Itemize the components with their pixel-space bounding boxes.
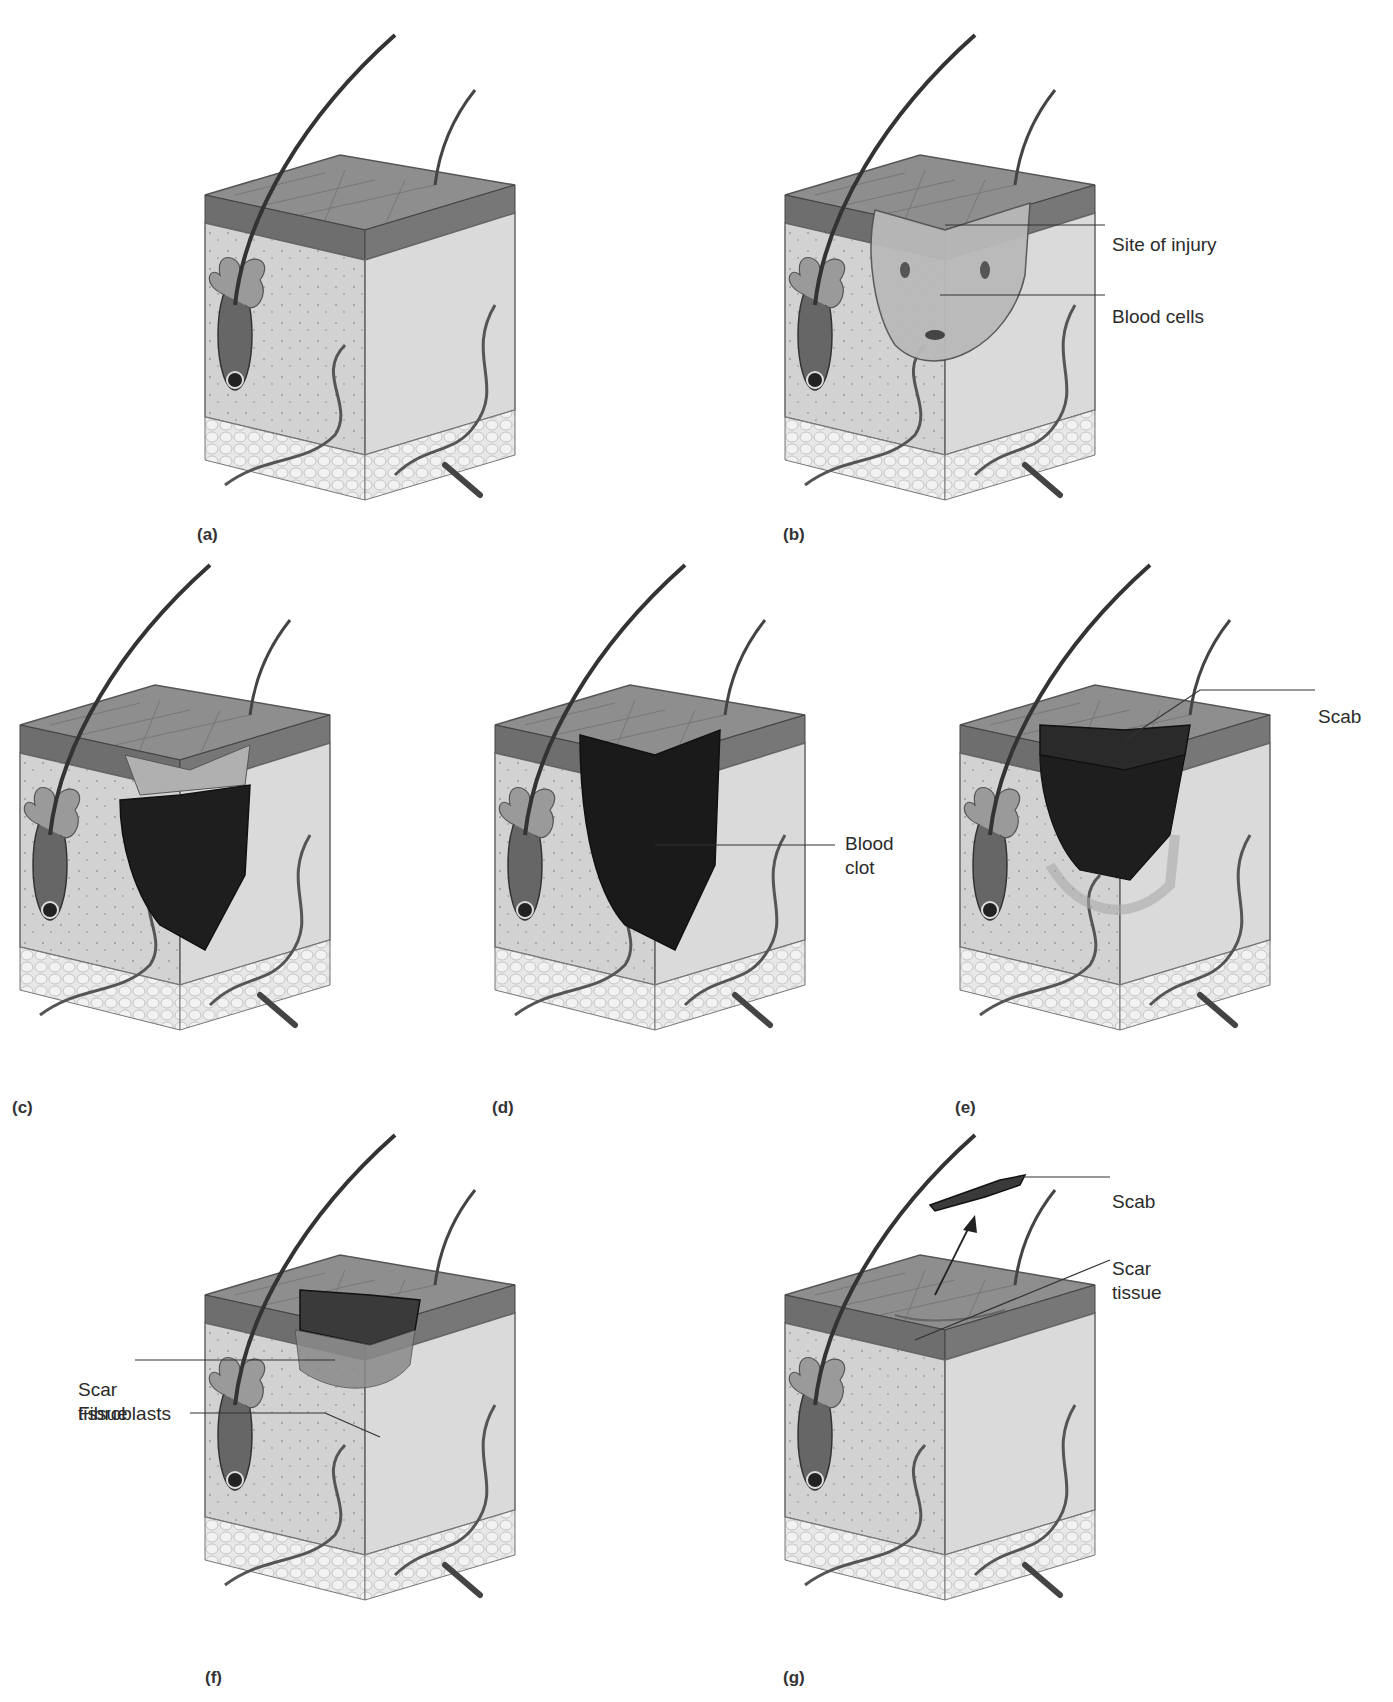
annotation-scab: Scab (1318, 705, 1361, 729)
detached-scab (930, 1175, 1025, 1211)
annotation-scar-tissue-g: Scar tissue (1112, 1257, 1162, 1305)
panel-label-b: (b) (783, 525, 805, 545)
skin-block-illustration (495, 685, 805, 1030)
skin-block-illustration (205, 155, 515, 500)
panel-label-a: (a) (197, 525, 218, 545)
panel-label-e: (e) (955, 1098, 976, 1118)
annotation-site-of-injury: Site of injury (1112, 233, 1217, 257)
annotation-scab-detached: Scab (1112, 1190, 1155, 1214)
annotation-blood-cells: Blood cells (1112, 305, 1204, 329)
panel-label-c: (c) (12, 1098, 33, 1118)
annotation-fibroblasts: Fibroblasts (78, 1402, 171, 1426)
skin-block-illustration (205, 1255, 515, 1600)
annotation-blood-clot: Blood clot (845, 832, 894, 880)
arrow-head (963, 1215, 977, 1233)
skin-block-illustration (785, 1255, 1095, 1600)
panel-label-g: (g) (783, 1668, 805, 1688)
panel-label-d: (d) (492, 1098, 514, 1118)
skin-block-illustration (20, 685, 330, 1030)
skin-block-illustration (960, 685, 1270, 1030)
panel-label-f: (f) (205, 1668, 222, 1688)
skin-block-illustration (785, 155, 1095, 500)
